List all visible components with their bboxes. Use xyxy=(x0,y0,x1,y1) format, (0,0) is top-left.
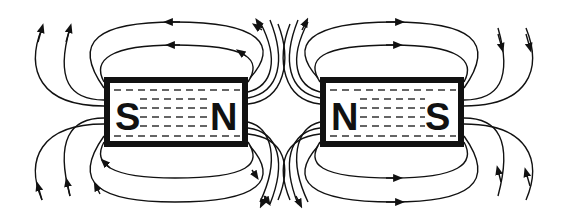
left-magnet-north-pole-label: N xyxy=(210,96,237,138)
left-magnet-south-pole-label: S xyxy=(115,96,140,138)
magnet-field-diagram: S N N S xyxy=(0,0,568,224)
right-magnet: N S xyxy=(323,80,461,144)
left-magnet: S N xyxy=(107,80,245,144)
right-magnet-north-pole-label: N xyxy=(331,96,358,138)
right-magnet-south-pole-label: S xyxy=(425,96,450,138)
